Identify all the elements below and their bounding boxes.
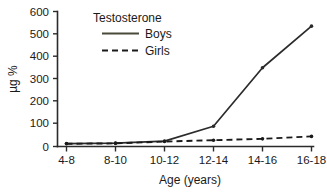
data-point-girls [261, 137, 265, 141]
data-point-boys [212, 124, 216, 128]
y-tick-label: 100 [30, 117, 49, 129]
x-tick-label: 12-14 [199, 154, 229, 166]
legend-label-boys: Boys [145, 27, 172, 41]
y-axis-title: µg % [6, 65, 20, 93]
x-axis-title: Age (years) [159, 173, 221, 187]
data-point-girls [114, 142, 118, 146]
y-tick-labels: 600 500 400 300 200 100 0 [30, 6, 49, 153]
testosterone-line-chart: 600 500 400 300 200 100 0 µg % 4-8 8-10 … [0, 0, 327, 193]
data-point-girls [310, 135, 314, 139]
x-tick-label: 14-16 [248, 154, 277, 166]
x-tick-label: 8-10 [104, 154, 127, 166]
legend-label-girls: Girls [145, 44, 170, 58]
legend: Testosterone Boys Girls [93, 11, 172, 58]
x-tick-label: 16-18 [297, 154, 326, 166]
data-point-girls [65, 142, 69, 146]
plot-area: 600 500 400 300 200 100 0 µg % 4-8 8-10 … [0, 0, 327, 193]
y-tick-label: 600 [30, 6, 49, 18]
y-tick-label: 0 [43, 141, 49, 153]
y-tick-label: 500 [30, 28, 49, 40]
x-tick-label: 4-8 [58, 154, 75, 166]
data-point-boys [261, 66, 265, 70]
data-series-layer [65, 24, 314, 145]
legend-title: Testosterone [93, 11, 162, 25]
y-tick-label: 200 [30, 95, 49, 107]
series-line-boys [67, 26, 312, 143]
y-tick-label: 400 [30, 50, 49, 62]
y-tick-label: 300 [30, 73, 49, 85]
x-tick-label: 10-12 [150, 154, 179, 166]
x-tick-labels: 4-8 8-10 10-12 12-14 14-16 16-18 [58, 154, 326, 166]
data-point-girls [212, 138, 216, 142]
data-point-boys [310, 24, 314, 28]
data-point-girls [163, 140, 167, 144]
